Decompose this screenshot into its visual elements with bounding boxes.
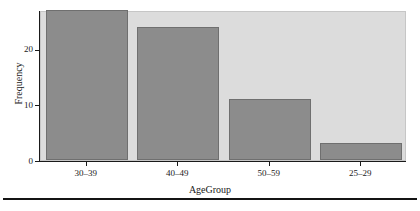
y-axis-line — [39, 11, 40, 162]
x-axis-line — [39, 161, 406, 162]
y-axis-title: Frequency — [13, 44, 24, 124]
bar-1 — [137, 27, 219, 160]
x-tick-label-0: 30–39 — [40, 168, 132, 178]
y-tick-mark-10 — [35, 105, 39, 106]
bar-2 — [229, 99, 311, 160]
bar-3 — [320, 143, 402, 160]
y-tick-mark-20 — [35, 50, 39, 51]
x-tick-mark-1 — [177, 162, 178, 166]
plot-panel — [40, 11, 406, 161]
x-tick-label-3: 25–29 — [315, 168, 407, 178]
y-tick-label-0: 0 — [18, 157, 33, 166]
x-tick-mark-0 — [86, 162, 87, 166]
x-axis-title: AgeGroup — [0, 184, 420, 195]
x-tick-label-2: 50–59 — [223, 168, 315, 178]
x-tick-label-1: 40–49 — [132, 168, 224, 178]
x-tick-mark-3 — [360, 162, 361, 166]
bar-chart-figure: 01020 30–3940–4950–5925–29 AgeGroup Freq… — [0, 0, 420, 211]
x-tick-mark-2 — [269, 162, 270, 166]
bottom-horizontal-rule — [3, 198, 417, 200]
y-tick-mark-0 — [35, 161, 39, 162]
bar-0 — [46, 10, 128, 160]
